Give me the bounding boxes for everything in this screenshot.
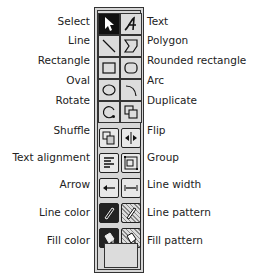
oval-tool[interactable] [98, 79, 120, 101]
label-arc: Arc [147, 74, 164, 86]
rectangle-tool[interactable] [98, 57, 120, 79]
rectangle-icon [101, 60, 117, 76]
line-width-button[interactable] [121, 178, 141, 198]
tool-palette [94, 7, 144, 273]
label-shuffle: Shuffle [53, 124, 90, 136]
command-buttons-grid [98, 127, 142, 249]
flip-icon [124, 131, 138, 145]
label-select: Select [58, 15, 90, 27]
label-text-alignment: Text alignment [12, 151, 90, 163]
label-line: Line [68, 34, 90, 46]
label-arrow: Arrow [60, 178, 90, 190]
line-tool[interactable] [98, 35, 120, 57]
label-group: Group [147, 151, 179, 163]
group-icon [124, 156, 138, 170]
align-left-icon [102, 156, 116, 170]
text-alignment-button[interactable] [99, 153, 119, 173]
duplicate-tool[interactable] [120, 101, 142, 123]
label-duplicate: Duplicate [147, 94, 197, 106]
rounded-rectangle-icon [123, 60, 139, 76]
shuffle-icon [102, 131, 116, 145]
select-tool[interactable] [98, 13, 120, 35]
palette-frame [97, 10, 141, 270]
rotate-icon [101, 104, 117, 120]
line-pattern-button[interactable] [121, 203, 141, 223]
diagonal-line-icon [101, 38, 117, 54]
label-rotate: Rotate [56, 94, 90, 106]
pen-pattern-icon [124, 206, 138, 220]
color-preview-swatch [104, 243, 138, 268]
arrow-pointer-icon [102, 16, 116, 32]
polygon-icon [123, 38, 139, 54]
oval-icon [101, 82, 117, 98]
label-text: Text [147, 15, 168, 27]
arc-tool[interactable] [120, 79, 142, 101]
line-width-icon [124, 181, 138, 195]
label-rounded-rectangle: Rounded rectangle [147, 54, 246, 66]
text-tool[interactable] [120, 13, 142, 35]
drawing-tools-grid [98, 13, 142, 123]
arrow-button[interactable] [99, 178, 119, 198]
label-rectangle: Rectangle [38, 54, 90, 66]
label-line-pattern: Line pattern [147, 206, 211, 218]
label-flip: Flip [147, 124, 166, 136]
shuffle-button[interactable] [99, 128, 119, 148]
script-a-icon [123, 16, 139, 32]
flip-button[interactable] [121, 128, 141, 148]
arrow-left-icon [102, 181, 116, 195]
label-line-color: Line color [39, 206, 90, 218]
label-oval: Oval [66, 74, 90, 86]
arc-icon [123, 82, 139, 98]
label-line-width: Line width [147, 178, 201, 190]
rounded-rectangle-tool[interactable] [120, 57, 142, 79]
rotate-tool[interactable] [98, 101, 120, 123]
label-fill-color: Fill color [47, 234, 90, 246]
label-polygon: Polygon [147, 34, 188, 46]
group-button[interactable] [121, 153, 141, 173]
label-fill-pattern: Fill pattern [147, 234, 203, 246]
line-color-button[interactable] [99, 203, 119, 223]
pen-icon [102, 206, 116, 220]
duplicate-icon [123, 104, 139, 120]
polygon-tool[interactable] [120, 35, 142, 57]
